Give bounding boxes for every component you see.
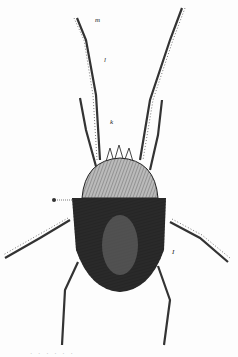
- label-k: k: [110, 118, 113, 126]
- label-l: l: [104, 56, 106, 64]
- figure-caption: · · · · · ·: [30, 350, 210, 357]
- label-m: m: [95, 16, 100, 24]
- mite-drawing: [0, 0, 238, 357]
- mite-engraving: m l k I · · · · · ·: [0, 0, 238, 357]
- label-side: I: [172, 248, 174, 256]
